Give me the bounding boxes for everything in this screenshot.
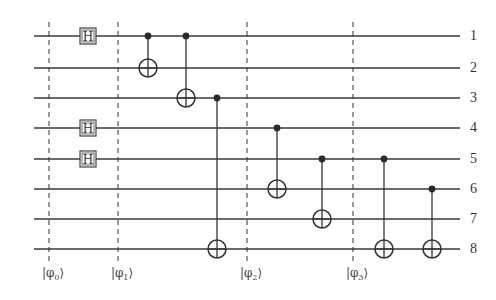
qubit-index-label: 6 xyxy=(470,181,477,197)
qubit-index-label: 7 xyxy=(470,211,477,227)
hadamard-label: H xyxy=(83,122,93,136)
control-dot-icon xyxy=(214,95,221,102)
state-label: |φ3⟩ xyxy=(346,266,368,282)
control-dot-icon xyxy=(319,156,326,163)
hadamard-label: H xyxy=(83,153,93,167)
quantum-circuit-diagram: HHH 12345678|φ0⟩|φ1⟩|φ2⟩|φ3⟩ xyxy=(0,0,496,300)
qubit-index-label: 4 xyxy=(470,120,477,136)
qubit-index-label: 5 xyxy=(470,151,477,167)
control-dot-icon xyxy=(183,33,190,40)
state-label: |φ2⟩ xyxy=(240,266,262,282)
hadamard-label: H xyxy=(83,30,93,44)
state-label: |φ1⟩ xyxy=(111,266,133,282)
qubit-index-label: 2 xyxy=(470,60,477,76)
control-dot-icon xyxy=(381,156,388,163)
state-label: |φ0⟩ xyxy=(42,266,64,282)
control-dot-icon xyxy=(429,186,436,193)
qubit-index-label: 1 xyxy=(470,28,477,44)
control-dot-icon xyxy=(145,33,152,40)
qubit-index-label: 3 xyxy=(470,90,477,106)
control-dot-icon xyxy=(274,125,281,132)
qubit-index-label: 8 xyxy=(470,241,477,257)
circuit-svg: HHH xyxy=(0,0,496,300)
